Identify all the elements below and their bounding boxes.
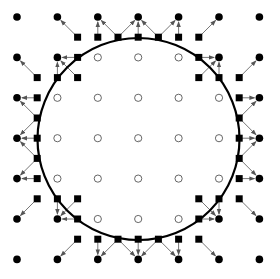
- square-node: [135, 236, 142, 243]
- square-node: [155, 34, 162, 41]
- open-node: [135, 54, 142, 61]
- open-node: [135, 215, 142, 222]
- square-node: [74, 195, 81, 202]
- square-node: [155, 236, 162, 243]
- filled-node: [256, 13, 264, 21]
- open-node: [175, 135, 182, 142]
- square-node: [34, 195, 41, 202]
- filled-node: [13, 175, 21, 183]
- filled-node: [13, 134, 21, 142]
- filled-node: [256, 256, 264, 264]
- open-node: [94, 94, 101, 101]
- filled-node: [13, 256, 21, 264]
- square-node: [236, 115, 243, 122]
- open-node: [175, 175, 182, 182]
- open-node: [54, 135, 61, 142]
- square-node: [236, 94, 243, 101]
- filled-node: [13, 94, 21, 102]
- square-node: [216, 74, 223, 81]
- filled-node: [54, 13, 62, 21]
- square-node: [115, 34, 122, 41]
- open-node: [175, 54, 182, 61]
- open-node: [135, 94, 142, 101]
- square-node: [74, 236, 81, 243]
- square-node: [195, 54, 202, 61]
- square-node: [216, 195, 223, 202]
- filled-node: [215, 256, 223, 264]
- square-node: [54, 74, 61, 81]
- open-node: [54, 175, 61, 182]
- square-node: [74, 216, 81, 223]
- square-node: [175, 34, 182, 41]
- square-node: [195, 236, 202, 243]
- square-node: [94, 236, 101, 243]
- center-mark: [138, 140, 140, 142]
- square-node: [195, 74, 202, 81]
- square-node: [236, 135, 243, 142]
- filled-node: [175, 256, 183, 264]
- square-node: [236, 175, 243, 182]
- square-node: [94, 34, 101, 41]
- filled-node: [54, 215, 62, 223]
- square-node: [195, 216, 202, 223]
- square-node: [74, 54, 81, 61]
- square-node: [236, 155, 243, 162]
- filled-node: [134, 13, 142, 21]
- square-node: [115, 236, 122, 243]
- filled-node: [13, 215, 21, 223]
- open-node: [135, 135, 142, 142]
- square-node: [34, 155, 41, 162]
- square-node: [74, 34, 81, 41]
- filled-node: [256, 54, 264, 62]
- filled-node: [94, 13, 102, 21]
- filled-node: [134, 256, 142, 264]
- filled-node: [94, 256, 102, 264]
- open-node: [94, 135, 101, 142]
- square-node: [54, 195, 61, 202]
- open-node: [94, 215, 101, 222]
- open-node: [135, 175, 142, 182]
- open-node: [94, 175, 101, 182]
- filled-node: [54, 54, 62, 62]
- square-node: [236, 195, 243, 202]
- square-node: [195, 34, 202, 41]
- open-node: [94, 54, 101, 61]
- square-node: [34, 115, 41, 122]
- filled-node: [256, 215, 264, 223]
- filled-node: [13, 54, 21, 62]
- open-node: [175, 94, 182, 101]
- square-node: [135, 34, 142, 41]
- square-node: [34, 135, 41, 142]
- square-node: [34, 74, 41, 81]
- filled-node: [256, 94, 264, 102]
- square-node: [236, 74, 243, 81]
- open-node: [54, 94, 61, 101]
- filled-node: [215, 215, 223, 223]
- open-node: [215, 135, 222, 142]
- filled-node: [215, 13, 223, 21]
- square-node: [195, 195, 202, 202]
- filled-node: [256, 134, 264, 142]
- square-node: [34, 94, 41, 101]
- open-node: [215, 94, 222, 101]
- square-node: [175, 236, 182, 243]
- filled-node: [215, 54, 223, 62]
- filled-node: [256, 175, 264, 183]
- filled-node: [13, 13, 21, 21]
- filled-node: [54, 256, 62, 264]
- square-node: [74, 74, 81, 81]
- square-node: [34, 175, 41, 182]
- open-node: [215, 175, 222, 182]
- circle-grid-diagram: [0, 0, 280, 279]
- open-node: [175, 215, 182, 222]
- filled-node: [175, 13, 183, 21]
